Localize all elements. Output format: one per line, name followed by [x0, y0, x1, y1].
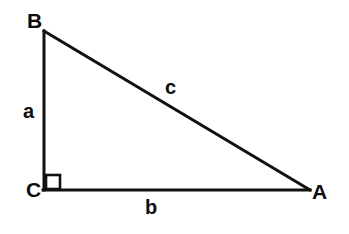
triangle-drawing: [0, 0, 349, 234]
vertex-label-b: B: [27, 10, 42, 31]
side-label-b: b: [145, 197, 157, 217]
right-triangle-figure: B C A a b c: [0, 0, 349, 234]
side-label-a: a: [23, 101, 34, 121]
vertex-label-c: C: [26, 179, 41, 200]
vertex-label-a: A: [312, 181, 327, 202]
triangle-side-c-line: [44, 31, 310, 190]
side-label-c: c: [165, 77, 176, 97]
right-angle-marker-icon: [46, 175, 60, 189]
